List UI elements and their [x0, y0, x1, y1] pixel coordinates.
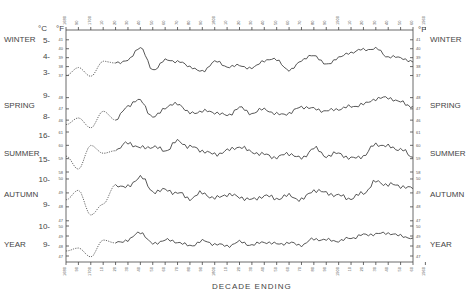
c-tick-left: 3-: [43, 68, 50, 77]
x-tick-label-top: 60: [161, 20, 166, 25]
x-tick-label-bottom: 30: [124, 266, 129, 271]
f-tick-right: 58: [416, 170, 421, 175]
panel-label-right-winter: WINTER: [430, 35, 462, 44]
panel-label-spring: SPRING: [4, 101, 35, 110]
unit-f-right-label: °F: [418, 25, 426, 34]
series-winter: [116, 47, 413, 72]
f-tick-left: 49: [59, 190, 64, 195]
x-tick-label-top: 70: [174, 20, 179, 25]
seasonal-temperature-chart: 1680168090901700170010102020303040405050…: [0, 0, 475, 302]
panel-label-year: YEAR: [4, 240, 26, 249]
f-tick-left: 41: [59, 37, 64, 42]
panel-label-right-autumn: AUTUMN: [430, 190, 464, 199]
f-tick-left: 50: [59, 224, 64, 229]
f-tick-left: 61: [59, 130, 64, 135]
f-tick-left: 58: [59, 170, 64, 175]
unit-c-label: °C: [38, 24, 47, 33]
x-tick-label-bottom: 50: [149, 266, 154, 271]
f-tick-right: 40: [416, 46, 421, 51]
x-tick-label-bottom: 1960: [421, 266, 426, 276]
x-tick-label-top: 30: [248, 20, 253, 25]
x-tick-label-bottom: 10: [99, 266, 104, 271]
panel-label-summer: SUMMER: [4, 149, 40, 158]
series-year: [116, 232, 413, 248]
x-tick-label-top: 1800: [211, 15, 216, 25]
x-tick-label-bottom: 40: [260, 266, 265, 271]
f-tick-right: 47: [416, 254, 421, 259]
x-tick-label-bottom: 20: [236, 266, 241, 271]
series-year-early: [66, 240, 116, 257]
x-tick-label-top: 20: [359, 20, 364, 25]
x-tick-label-top: 50: [397, 20, 402, 25]
f-tick-left: 37: [59, 73, 64, 78]
x-tick-label-bottom: 20: [359, 266, 364, 271]
f-tick-right: 50: [416, 176, 421, 181]
x-tick-label-bottom: 1680: [62, 266, 67, 276]
f-tick-left: 60: [59, 143, 64, 148]
panel-label-autumn: AUTUMN: [4, 190, 38, 199]
x-tick-label-top: 60: [285, 20, 290, 25]
series-spring: [116, 97, 413, 120]
x-tick-label-top: 80: [310, 20, 315, 25]
f-tick-right: 60: [416, 143, 421, 148]
f-tick-right: 50: [416, 224, 421, 229]
series-spring-early: [66, 111, 116, 128]
x-tick-label-bottom: 30: [372, 266, 377, 271]
x-tick-label-bottom: 90: [322, 266, 327, 271]
x-tick-label-top: 10: [99, 20, 104, 25]
f-tick-left: 59: [59, 156, 64, 161]
x-tick-label-bottom: 50: [273, 266, 278, 271]
c-tick-left: 4-: [43, 52, 50, 61]
x-tick-label-top: 50: [149, 20, 154, 25]
x-tick-label-top: 40: [260, 20, 265, 25]
x-tick-label-top: 40: [136, 20, 141, 25]
f-tick-left: 48: [59, 244, 64, 249]
f-tick-right: 47: [416, 106, 421, 111]
axes: 1680168090901700170010102020303040405050…: [38, 15, 426, 276]
x-tick-label-top: 30: [124, 20, 129, 25]
x-tick-label-bottom: 90: [198, 266, 203, 271]
f-tick-left: 46: [59, 118, 64, 123]
x-tick-label-bottom: 1900: [335, 266, 340, 276]
x-tick-label-top: 40: [384, 20, 389, 25]
x-tick-label-bottom: 1800: [211, 266, 216, 276]
f-tick-right: 38: [416, 64, 421, 69]
c-tick-left: 9-: [43, 200, 50, 209]
x-tick-label-top: 90: [322, 20, 327, 25]
x-tick-label-top: 20: [112, 20, 117, 25]
f-tick-right: 41: [416, 37, 421, 42]
x-tick-label-top: 10: [347, 20, 352, 25]
x-tick-label-top: 1900: [335, 15, 340, 25]
series-summer-early: [66, 145, 116, 169]
x-tick-label-top: 20: [236, 20, 241, 25]
f-tick-left: 39: [59, 55, 64, 60]
f-tick-left: 48: [59, 204, 64, 209]
panel-label-winter: WINTER: [4, 35, 36, 44]
x-tick-label-bottom: 1700: [87, 266, 92, 276]
x-tick-label-top: 30: [372, 20, 377, 25]
x-tick-label-bottom: 80: [310, 266, 315, 271]
panel-label-right-summer: SUMMER: [430, 149, 466, 158]
x-tick-label-bottom: 50: [397, 266, 402, 271]
x-tick-label-top: 90: [74, 20, 79, 25]
x-tick-label-bottom: 10: [347, 266, 352, 271]
f-tick-right: 49: [416, 234, 421, 239]
f-tick-right: 39: [416, 55, 421, 60]
x-tick-label-bottom: 70: [174, 266, 179, 271]
f-tick-right: 37: [416, 73, 421, 78]
panel-label-right-year: YEAR: [430, 240, 452, 249]
c-tick-left: 10-: [38, 175, 50, 184]
x-tick-label-top: 1960: [421, 15, 426, 25]
labels-group: WINTERWINTERSPRINGSPRINGSUMMERSUMMERAUTU…: [4, 35, 466, 249]
c-tick-left: 8-: [43, 112, 50, 121]
f-tick-left: 38: [59, 64, 64, 69]
f-tick-right: 61: [416, 130, 421, 135]
x-tick-label-bottom: 30: [248, 266, 253, 271]
x-tick-label-bottom: 70: [297, 266, 302, 271]
series-autumn-early: [66, 185, 116, 216]
c-tick-left: 15-: [38, 155, 50, 164]
x-tick-label-top: 90: [198, 20, 203, 25]
x-tick-label-bottom: 40: [136, 266, 141, 271]
series-autumn: [116, 175, 413, 201]
f-tick-left: 47: [59, 106, 64, 111]
